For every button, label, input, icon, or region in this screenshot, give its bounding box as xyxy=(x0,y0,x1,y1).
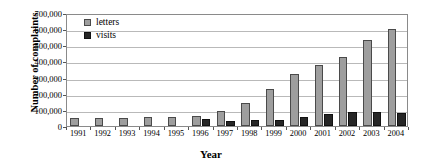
legend-swatch-visits-icon xyxy=(84,32,91,39)
y-tick-label: 600,000 xyxy=(4,25,62,35)
bar-visits-1997 xyxy=(226,121,235,126)
bar-letters-1996 xyxy=(192,116,201,126)
x-tick-mark xyxy=(384,127,385,130)
x-tick-mark xyxy=(359,127,360,130)
gridline xyxy=(67,96,407,97)
bar-visits-2003 xyxy=(373,112,382,126)
y-tick-label: 300,000 xyxy=(4,74,62,84)
bar-letters-1993 xyxy=(119,118,128,126)
chart-container: Number of complaints 0100,000200,000300,… xyxy=(0,0,422,167)
x-tick-mark xyxy=(139,127,140,130)
x-tick-mark xyxy=(213,127,214,130)
x-tick-mark xyxy=(408,127,409,130)
x-tick-mark xyxy=(237,127,238,130)
bar-letters-1995 xyxy=(168,117,177,126)
legend-swatch-letters-icon xyxy=(84,19,91,26)
y-tick-label: 700,000 xyxy=(4,9,62,19)
x-tick-mark xyxy=(335,127,336,130)
bar-visits-2000 xyxy=(300,117,309,126)
bar-letters-1999 xyxy=(266,89,275,126)
x-tick-mark xyxy=(90,127,91,130)
x-tick-mark xyxy=(66,127,67,130)
x-axis-title: Year xyxy=(0,148,422,160)
gridline xyxy=(67,80,407,81)
bar-letters-1991 xyxy=(70,118,79,126)
legend-label-letters: letters xyxy=(96,18,119,28)
bar-visits-1999 xyxy=(275,120,284,126)
bar-visits-2004 xyxy=(397,113,406,126)
bar-letters-2004 xyxy=(388,29,397,126)
y-tick-label: 500,000 xyxy=(4,41,62,51)
bar-letters-1994 xyxy=(144,117,153,126)
x-tick-mark xyxy=(310,127,311,130)
x-tick-mark xyxy=(261,127,262,130)
x-tick-label: 2004 xyxy=(381,129,411,138)
y-tick-label: 200,000 xyxy=(4,90,62,100)
x-tick-mark xyxy=(286,127,287,130)
bar-letters-2002 xyxy=(339,57,348,126)
legend-label-visits: visits xyxy=(96,31,116,41)
bar-letters-1992 xyxy=(95,118,104,126)
bar-letters-1998 xyxy=(241,103,250,126)
chart-legend: letters visits xyxy=(84,16,119,42)
bar-letters-2001 xyxy=(315,65,324,126)
x-tick-mark xyxy=(188,127,189,130)
x-tick-mark xyxy=(164,127,165,130)
y-tick-label: 100,000 xyxy=(4,106,62,116)
bar-letters-1997 xyxy=(217,111,226,126)
legend-item-letters: letters xyxy=(84,16,119,29)
y-tick-label: 400,000 xyxy=(4,57,62,67)
bar-visits-2001 xyxy=(324,114,333,126)
legend-item-visits: visits xyxy=(84,29,119,42)
bar-visits-2002 xyxy=(348,112,357,126)
bar-letters-2000 xyxy=(290,74,299,126)
x-tick-mark xyxy=(115,127,116,130)
y-tick-label: 0 xyxy=(4,122,62,132)
bar-letters-2003 xyxy=(363,40,372,126)
bar-visits-1996 xyxy=(202,119,211,126)
gridline xyxy=(67,63,407,64)
bar-visits-1998 xyxy=(251,120,260,126)
gridline xyxy=(67,47,407,48)
